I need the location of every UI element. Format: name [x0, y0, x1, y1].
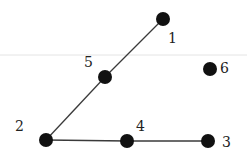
edge-5-2 — [46, 77, 105, 140]
node-label-1: 1 — [168, 30, 177, 46]
node-label-5: 5 — [84, 54, 93, 70]
node-2 — [39, 133, 53, 147]
node-5 — [98, 70, 112, 84]
node-6 — [203, 62, 217, 76]
node-3 — [201, 134, 215, 148]
node-label-4: 4 — [136, 118, 145, 134]
node-1 — [156, 12, 170, 26]
node-4 — [120, 134, 134, 148]
node-labels: 123456 — [15, 30, 231, 150]
nodes — [39, 12, 217, 148]
node-label-6: 6 — [220, 60, 229, 76]
edges — [46, 19, 208, 141]
graph-diagram: 123456 — [0, 0, 247, 165]
node-label-2: 2 — [15, 118, 24, 134]
node-label-3: 3 — [222, 134, 231, 150]
edge-2-4 — [46, 140, 127, 141]
edge-1-5 — [105, 19, 163, 77]
